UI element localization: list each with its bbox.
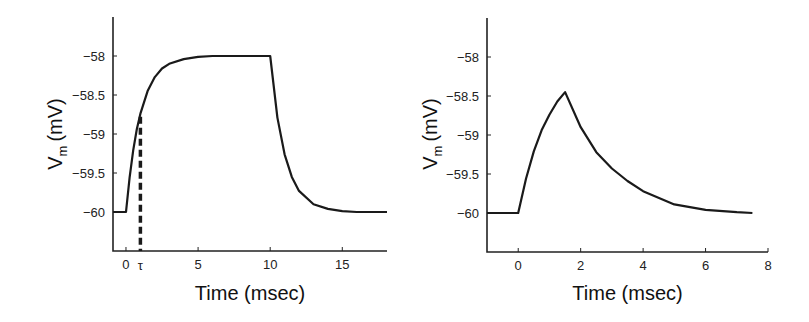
y-tick-label: −58	[83, 49, 105, 64]
y-label-subscript: m	[55, 146, 70, 157]
tau-label: τ	[138, 258, 144, 273]
x-tick-label: 8	[764, 258, 771, 273]
figure: −58−58.5−59−59.5−60051015Time (msec)Vm(m…	[0, 0, 809, 322]
y-label-main: V	[419, 156, 441, 170]
x-axis-label: Time (msec)	[572, 282, 682, 304]
right-plot-pulse-response: −58−58.5−59−59.5−6002468Time (msec)Vm(mV…	[419, 18, 772, 304]
x-tick-label: 6	[702, 258, 709, 273]
y-tick-label: −60	[83, 205, 105, 220]
y-label-unit: (mV)	[44, 98, 66, 141]
y-tick-label: −59	[83, 127, 105, 142]
y-axis-label: Vm(mV)	[44, 98, 70, 170]
x-tick-label: 4	[639, 258, 646, 273]
x-tick-label: 0	[122, 257, 129, 272]
x-axis-label: Time (msec)	[195, 282, 305, 304]
left-plot-step-response: −58−58.5−59−59.5−60051015Time (msec)Vm(m…	[44, 17, 387, 304]
y-tick-label: −58.5	[446, 89, 479, 104]
y-label-unit: (mV)	[419, 98, 441, 141]
axes-frame	[487, 18, 768, 252]
membrane-potential-trace	[487, 92, 752, 213]
y-tick-label: −58	[457, 50, 479, 65]
y-tick-label: −59	[457, 128, 479, 143]
y-tick-label: −59.5	[72, 166, 105, 181]
y-tick-label: −58.5	[72, 88, 105, 103]
membrane-potential-trace	[113, 56, 387, 212]
axes-frame	[113, 17, 387, 251]
x-tick-label: 15	[335, 257, 349, 272]
y-tick-label: −59.5	[446, 167, 479, 182]
x-tick-label: 10	[263, 257, 277, 272]
x-tick-label: 5	[194, 257, 201, 272]
y-label-main: V	[44, 156, 66, 170]
y-tick-label: −60	[457, 206, 479, 221]
y-axis-label: Vm(mV)	[419, 98, 445, 170]
y-label-subscript: m	[430, 146, 445, 157]
x-tick-label: 2	[577, 258, 584, 273]
x-tick-label: 0	[515, 258, 522, 273]
